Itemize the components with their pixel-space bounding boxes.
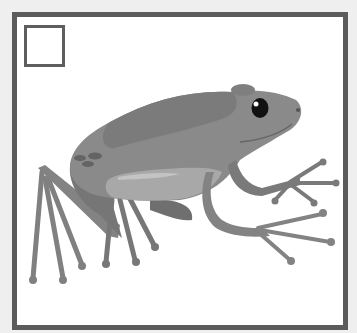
frog-illustration bbox=[0, 0, 357, 333]
